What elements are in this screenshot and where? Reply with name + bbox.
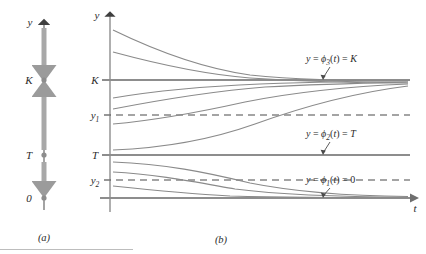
annotation-phi1: y = ϕ1(t) = 0 [305,174,355,188]
tick-label-y2: y2 [90,174,100,189]
panel-a: y K T 0 (a) [24,16,50,244]
panel-b: y t K y1 T y2 y = ϕ3(t) = K y = ϕ2(t) = … [90,9,419,246]
solution-curve-just-above-t [113,86,408,150]
solution-curve-above-k-1 [113,30,408,81]
panel-b-caption: (b) [215,234,228,246]
panel-b-y-axis-label: y [94,9,100,21]
tick-label-y1: y1 [90,109,100,124]
annotation-phi2: y = ϕ2(t) = T [305,128,357,142]
figure-svg: y K T 0 (a) [0,0,426,254]
panel-a-label-t: T [26,149,33,161]
annotation-phi3: y = ϕ3(t) = K [305,53,358,67]
equilibrium-dot-k [41,77,46,82]
equilibrium-dot-zero [41,195,46,200]
panel-a-caption: (a) [38,232,51,244]
tick-label-k: K [90,74,99,86]
equilibrium-dot-t [41,152,46,157]
panel-a-y-axis-label: y [27,16,33,28]
y-axis-ticks [104,80,110,180]
panel-a-label-k: K [24,74,33,86]
tick-label-t: T [92,149,99,161]
solution-curve-through-y1 [113,84,408,124]
figure-container: y K T 0 (a) [0,0,426,254]
solution-curve-above-k-2 [113,52,408,83]
panel-a-label-zero: 0 [26,192,32,204]
panel-b-t-axis-label: t [413,202,417,214]
